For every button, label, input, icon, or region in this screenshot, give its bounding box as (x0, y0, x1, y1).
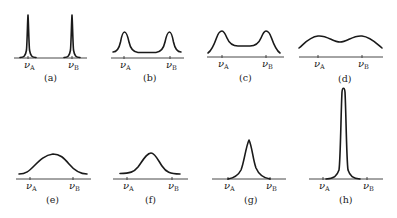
lineshape-f (120, 153, 180, 174)
svg-text:νB: νB (68, 59, 79, 72)
svg-text:νB: νB (166, 59, 177, 72)
lineshape-h (326, 88, 360, 179)
caption-a: (a) (44, 72, 57, 83)
svg-text:νB: νB (69, 180, 80, 193)
svg-text:νA: νA (24, 59, 35, 72)
caption-f: (f) (145, 194, 156, 205)
caption-e: (e) (46, 194, 59, 205)
caption-g: (g) (244, 194, 258, 205)
panel-c: νA νB (c) (207, 31, 284, 83)
svg-text:νA: νA (224, 180, 235, 193)
svg-text:νA: νA (314, 58, 325, 71)
panel-f: νA νB (f) (113, 153, 188, 205)
svg-text:νA: νA (120, 59, 131, 72)
svg-text:νA: νA (319, 180, 330, 193)
svg-text:νB: νB (266, 180, 277, 193)
svg-text:νB: νB (168, 180, 179, 193)
panel-b: νA νB (b) (111, 32, 184, 83)
caption-h: (h) (339, 194, 353, 205)
panel-g: νA νB (g) (212, 140, 286, 205)
caption-b: (b) (143, 72, 157, 83)
exchange-lineshape-figure: νA νB (a) νA νB (b) νA νB (c) νA νB (d) (0, 0, 397, 218)
lineshape-g (228, 140, 270, 179)
panel-a: νA νB (a) (14, 15, 87, 83)
svg-text:νA: νA (218, 58, 229, 71)
caption-d: (d) (338, 73, 352, 84)
caption-c: (c) (239, 72, 252, 83)
svg-text:νB: νB (358, 58, 369, 71)
lineshape-c (208, 31, 280, 53)
svg-text:νA: νA (26, 180, 37, 193)
svg-text:νB: νB (262, 58, 273, 71)
lineshape-d (299, 36, 382, 48)
panel-d: νA νB (d) (299, 36, 383, 84)
panel-e: νA νB (e) (16, 154, 91, 205)
svg-text:νB: νB (363, 180, 374, 193)
lineshape-b (113, 32, 181, 53)
lineshape-a (20, 15, 80, 58)
lineshape-e (19, 154, 87, 174)
svg-text:νA: νA (123, 180, 134, 193)
panel-h: νA νB (h) (309, 88, 383, 205)
